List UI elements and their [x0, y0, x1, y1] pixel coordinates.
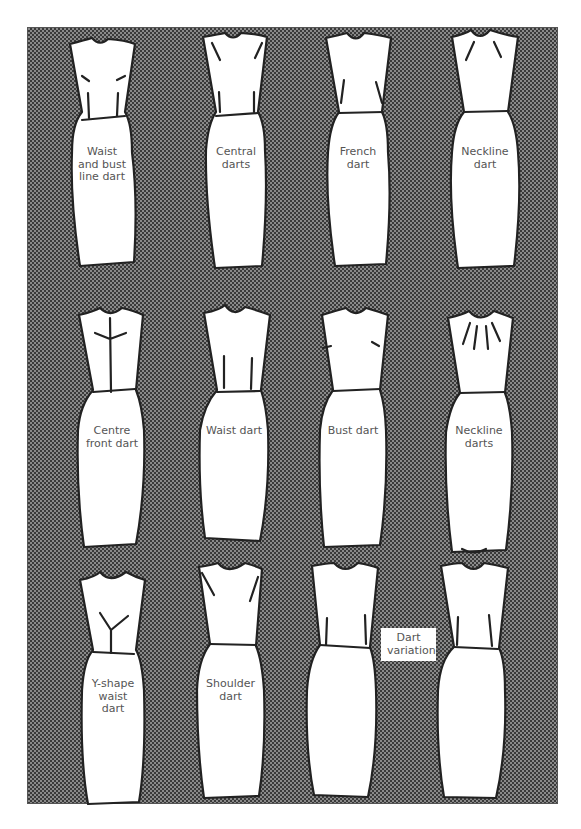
dress-label: Neckline darts	[446, 425, 512, 450]
dress-variation-3	[307, 563, 378, 797]
dress-label: Neckline dart	[452, 146, 518, 171]
dress-waist-dart	[200, 305, 270, 541]
dress-variation-4	[438, 549, 508, 798]
dress-label: Shoulder dart	[197, 678, 264, 703]
dress-label: Centre front dart	[80, 425, 144, 450]
dress-label: Central darts	[206, 146, 266, 171]
dress-label: Y-shape waist dart	[82, 678, 144, 716]
dress-label: Bust dart	[320, 425, 386, 438]
dress-label: French dart	[328, 146, 388, 171]
dress-label: Waist and bust line dart	[72, 146, 132, 184]
dress-label: Waist dart	[200, 425, 268, 438]
caption-box: Dart variations	[381, 628, 436, 661]
